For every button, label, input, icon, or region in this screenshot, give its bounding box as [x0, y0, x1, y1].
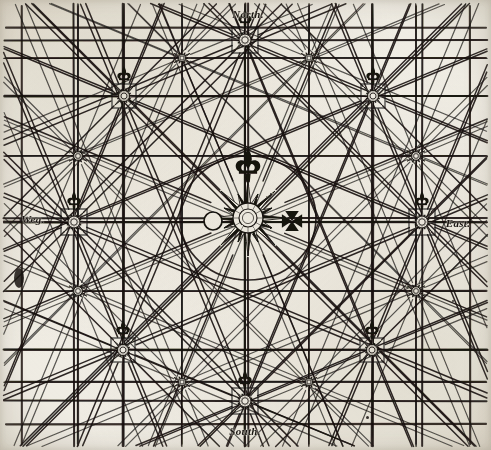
cardinal-label-west: Weg. — [21, 213, 44, 225]
cardinal-label-north: North. — [232, 8, 263, 20]
compass-rose-star — [359, 337, 385, 363]
compass-rose-star — [360, 83, 386, 109]
speck-bottom-right — [366, 416, 369, 419]
rhumb-line — [4, 400, 231, 401]
speck-mid-right — [452, 300, 454, 302]
compass-rose-star — [408, 208, 436, 236]
ink-blot-left-edge — [14, 268, 24, 288]
compass-rose-star — [60, 208, 88, 236]
chart-canvas — [0, 0, 491, 450]
rhumb-line — [425, 156, 487, 157]
rhumb-line — [248, 258, 249, 446]
rhumb-line — [78, 4, 79, 282]
rhumb-line — [259, 401, 487, 402]
sun-circle-symbol — [204, 212, 222, 230]
compass-rose-star — [231, 387, 259, 415]
compass-rose-star — [111, 83, 137, 109]
compass-rose-chart: North.Weg.East.South. — [0, 0, 491, 450]
compass-rose-star — [231, 26, 259, 54]
rhumb-line — [4, 382, 300, 383]
compass-rose-star — [110, 337, 136, 363]
rhumb-line — [73, 4, 74, 208]
cardinal-label-east: East. — [446, 217, 470, 229]
cardinal-label-south: South. — [229, 425, 260, 437]
